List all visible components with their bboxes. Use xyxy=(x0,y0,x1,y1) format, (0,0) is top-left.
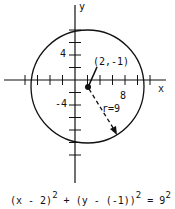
eq-term-x: (x - 2) xyxy=(10,195,52,206)
tick-label-x-8: 8 xyxy=(120,91,126,101)
x-axis-label: x xyxy=(158,84,164,94)
coordinate-plane xyxy=(0,0,175,209)
radius-arrowhead xyxy=(110,126,117,135)
y-axis-label: y xyxy=(79,2,85,12)
eq-exp-x: 2 xyxy=(52,190,57,200)
eq-exp-y: 2 xyxy=(136,190,141,200)
circle-equation: (x - 2)2 + (y - (-1))2 = 92 xyxy=(10,192,171,206)
tick-label-y-4: 4 xyxy=(60,49,66,59)
eq-exp-rhs: 2 xyxy=(165,190,170,200)
center-label: (2,-1) xyxy=(93,57,129,67)
tick-label-y-neg4: -4 xyxy=(55,99,67,109)
radius-label: r=9 xyxy=(102,104,120,114)
eq-plus: + xyxy=(58,195,76,206)
eq-term-y: (y - (-1)) xyxy=(76,195,136,206)
center-pointer xyxy=(89,67,97,85)
center-point xyxy=(85,84,91,90)
eq-equals: = xyxy=(141,195,159,206)
